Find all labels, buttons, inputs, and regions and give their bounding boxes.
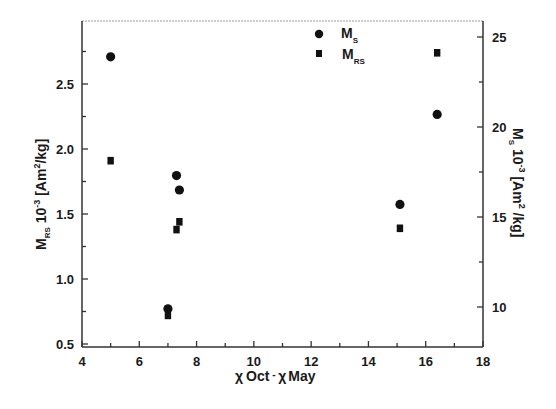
x-axis-label: χOct - χMay — [235, 368, 316, 384]
right-y-tick-label: 10 — [492, 300, 506, 315]
mrs-data-point — [397, 225, 403, 233]
x-tick-label: 4 — [78, 354, 86, 369]
ms-data-point — [172, 171, 181, 180]
legend-square-marker-icon — [316, 50, 322, 57]
ms-data-point — [106, 52, 115, 61]
right-y-axis-label: MS 10-3 [Am2 /kg] — [507, 128, 527, 237]
x-axis-ticks: 4681012141618 — [78, 341, 490, 369]
ms-data-point — [433, 110, 442, 119]
mrs-data-point — [434, 49, 440, 57]
x-tick-label: 8 — [193, 354, 200, 369]
left-y-tick-label: 1.0 — [56, 272, 74, 287]
x-tick-label: 18 — [476, 354, 490, 369]
left-y-tick-label: 2.0 — [56, 142, 74, 157]
ms-data-point — [395, 200, 404, 209]
right-y-tick-label: 15 — [492, 210, 506, 225]
x-tick-label: 10 — [247, 354, 261, 369]
scatter-chart: 4681012141618 0.51.01.52.02.5 10152025 M… — [0, 0, 556, 409]
left-y-tick-label: 0.5 — [56, 337, 74, 352]
left-y-axis-label: MRS 10-3 [Am2/kg] — [32, 139, 52, 250]
left-y-axis-ticks: 0.51.01.52.02.5 — [56, 52, 88, 353]
x-tick-label: 16 — [418, 354, 432, 369]
legend-label-mrs: MRS — [342, 46, 365, 66]
left-y-tick-label: 2.5 — [56, 77, 74, 92]
mrs-data-point — [107, 157, 113, 165]
x-tick-label: 6 — [136, 354, 143, 369]
chart-container: 4681012141618 0.51.01.52.02.5 10152025 M… — [0, 0, 556, 409]
x-tick-label: 12 — [304, 354, 318, 369]
data-points — [106, 49, 442, 319]
legend-label-ms: MS — [341, 25, 359, 45]
x-tick-label: 14 — [361, 354, 376, 369]
mrs-data-point — [165, 312, 171, 320]
legend: MS MRS — [315, 25, 366, 66]
right-y-tick-label: 25 — [492, 30, 506, 45]
legend-circle-marker-icon — [315, 30, 323, 38]
right-y-tick-label: 20 — [492, 120, 506, 135]
mrs-data-point — [173, 226, 179, 234]
ms-data-point — [175, 185, 184, 194]
plot-frame — [82, 21, 483, 347]
mrs-data-point — [176, 218, 182, 226]
right-y-axis-ticks: 10152025 — [477, 30, 506, 315]
left-y-tick-label: 1.5 — [56, 207, 74, 222]
